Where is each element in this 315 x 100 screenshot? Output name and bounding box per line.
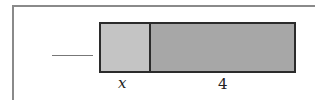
segment-4 — [151, 24, 294, 71]
segment-4-label: 4 — [218, 75, 228, 93]
tape-bar — [99, 22, 296, 73]
segment-x — [101, 24, 151, 71]
segment-x-label: x — [118, 74, 126, 92]
answer-blank-line — [52, 55, 93, 56]
